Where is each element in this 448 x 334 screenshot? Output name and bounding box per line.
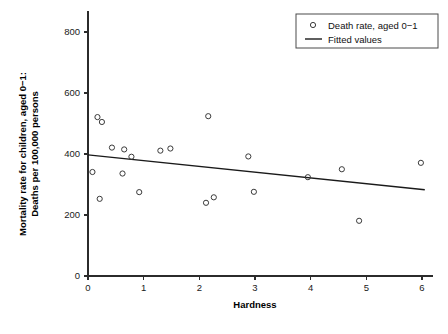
data-point[interactable] <box>122 147 127 152</box>
data-point[interactable] <box>203 200 208 205</box>
data-point[interactable] <box>206 114 211 119</box>
legend-label-1: Fitted values <box>328 34 382 45</box>
data-point[interactable] <box>251 189 256 194</box>
data-point[interactable] <box>211 195 216 200</box>
x-tick-label-0: 0 <box>85 282 90 293</box>
legend-label-0: Death rate, aged 0−1 <box>328 20 418 31</box>
y-tick-label-800: 800 <box>64 26 80 37</box>
y-axis-title-line1: Mortality rate for children, aged 0−1: <box>17 72 28 236</box>
scatter-plot: 02004006008000123456HardnessMortality ra… <box>0 0 448 334</box>
data-point[interactable] <box>356 218 361 223</box>
data-point[interactable] <box>99 119 104 124</box>
x-tick-label-2: 2 <box>197 282 202 293</box>
x-axis-title: Hardness <box>233 299 276 310</box>
data-point[interactable] <box>129 154 134 159</box>
data-point[interactable] <box>120 171 125 176</box>
data-point[interactable] <box>339 167 344 172</box>
data-point[interactable] <box>137 190 142 195</box>
data-point[interactable] <box>90 169 95 174</box>
x-tick-label-6: 6 <box>419 282 424 293</box>
data-point[interactable] <box>418 160 423 165</box>
x-tick-label-3: 3 <box>252 282 257 293</box>
data-point[interactable] <box>95 114 100 119</box>
y-tick-label-0: 0 <box>75 270 80 281</box>
data-point[interactable] <box>109 145 114 150</box>
fitted-values-line <box>88 155 425 190</box>
y-tick-label-200: 200 <box>64 209 80 220</box>
y-tick-label-600: 600 <box>64 87 80 98</box>
x-tick-label-4: 4 <box>308 282 313 293</box>
x-tick-label-1: 1 <box>141 282 146 293</box>
chart-container: 02004006008000123456HardnessMortality ra… <box>0 0 448 334</box>
data-point[interactable] <box>246 154 251 159</box>
x-tick-label-5: 5 <box>364 282 369 293</box>
y-tick-label-400: 400 <box>64 148 80 159</box>
y-axis-title-line2: Deaths per 100,000 persons <box>29 91 40 217</box>
data-point[interactable] <box>168 146 173 151</box>
data-point[interactable] <box>158 148 163 153</box>
data-point[interactable] <box>97 196 102 201</box>
